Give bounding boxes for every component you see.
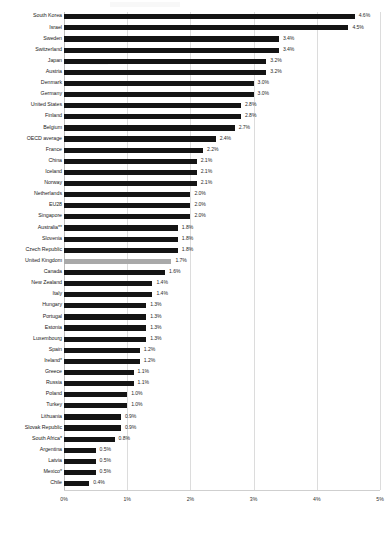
bar-chart: South Korea4.6%Israel4.5%Sweden3.4%Switz… bbox=[0, 0, 388, 534]
bar-value-label: 1.4% bbox=[156, 289, 167, 299]
bar-value-label: 1.6% bbox=[169, 267, 180, 277]
bar-row: United States2.8% bbox=[64, 101, 380, 111]
bar-value-label: 3.0% bbox=[258, 78, 269, 88]
bar-value-label: 0.5% bbox=[100, 467, 111, 477]
category-label: Portugal bbox=[0, 312, 62, 322]
category-label: Ireland* bbox=[0, 356, 62, 366]
bar-value-label: 2.0% bbox=[194, 189, 205, 199]
bar-value-label: 3.2% bbox=[270, 56, 281, 66]
bar-value-label: 0.5% bbox=[100, 445, 111, 455]
bar-value-label: 0.5% bbox=[100, 456, 111, 466]
bar-row: Russia1.1% bbox=[64, 379, 380, 389]
bar-row: Slovenia1.8% bbox=[64, 234, 380, 244]
category-label: Lithuania bbox=[0, 412, 62, 422]
category-label: Sweden bbox=[0, 34, 62, 44]
bar-value-label: 3.4% bbox=[283, 34, 294, 44]
bar-value-label: 1.7% bbox=[175, 256, 186, 266]
bar-value-label: 1.0% bbox=[131, 400, 142, 410]
bar-row: South Africa*0.8% bbox=[64, 434, 380, 444]
bar bbox=[64, 292, 152, 297]
category-label: Hungary bbox=[0, 300, 62, 310]
bar-value-label: 4.6% bbox=[359, 11, 370, 21]
bar bbox=[64, 59, 266, 64]
bar-row: Finland2.8% bbox=[64, 112, 380, 122]
bar-row: France2.2% bbox=[64, 145, 380, 155]
bar bbox=[64, 181, 197, 186]
bar-row: Portugal1.3% bbox=[64, 312, 380, 322]
bar-row: Austria3.2% bbox=[64, 68, 380, 78]
bar bbox=[64, 48, 279, 53]
category-label: France bbox=[0, 145, 62, 155]
category-label: South Korea bbox=[0, 11, 62, 21]
bar-row: Czech Republic1.8% bbox=[64, 245, 380, 255]
bar-row: Israel4.5% bbox=[64, 23, 380, 33]
category-label: Germany bbox=[0, 89, 62, 99]
bar bbox=[64, 337, 146, 342]
bar-row: Lithuania0.9% bbox=[64, 412, 380, 422]
bar-row: Turkey1.0% bbox=[64, 401, 380, 411]
bar-value-label: 3.4% bbox=[283, 45, 294, 55]
bar bbox=[64, 370, 134, 375]
category-label: Singapore bbox=[0, 211, 62, 221]
bar-value-label: 1.3% bbox=[150, 300, 161, 310]
category-label: Poland bbox=[0, 389, 62, 399]
x-tick-label: 2% bbox=[187, 496, 195, 502]
category-label: Chile bbox=[0, 478, 62, 488]
category-label: Finland bbox=[0, 111, 62, 121]
plot-area: South Korea4.6%Israel4.5%Sweden3.4%Switz… bbox=[64, 12, 380, 490]
category-label: OECD average bbox=[0, 134, 62, 144]
bar bbox=[64, 314, 146, 319]
category-label: EU28 bbox=[0, 200, 62, 210]
bar bbox=[64, 136, 216, 141]
category-label: Austria bbox=[0, 67, 62, 77]
bar-row: Denmark3.0% bbox=[64, 79, 380, 89]
bar bbox=[64, 459, 96, 464]
bar bbox=[64, 192, 190, 197]
category-label: Estonia bbox=[0, 323, 62, 333]
bar bbox=[64, 392, 127, 397]
bar-row: Poland1.0% bbox=[64, 390, 380, 400]
x-tick-label: 0% bbox=[60, 496, 68, 502]
bar-value-label: 2.7% bbox=[239, 123, 250, 133]
bar-row: EU282.0% bbox=[64, 201, 380, 211]
bar bbox=[64, 114, 241, 119]
bar-value-label: 1.8% bbox=[182, 245, 193, 255]
bar bbox=[64, 159, 197, 164]
bar-value-label: 2.0% bbox=[194, 200, 205, 210]
category-label: Japan bbox=[0, 56, 62, 66]
bar bbox=[64, 125, 235, 130]
category-label: Australia** bbox=[0, 223, 62, 233]
x-axis: 0%1%2%3%4%5% bbox=[64, 490, 380, 508]
bar bbox=[64, 448, 96, 453]
category-label: Czech Republic bbox=[0, 245, 62, 255]
x-tick-label: 1% bbox=[123, 496, 131, 502]
bar-value-label: 1.0% bbox=[131, 389, 142, 399]
bar-value-label: 2.8% bbox=[245, 111, 256, 121]
bar bbox=[64, 470, 96, 475]
category-label: Norway bbox=[0, 178, 62, 188]
category-label: Italy bbox=[0, 289, 62, 299]
category-label: Denmark bbox=[0, 78, 62, 88]
bar bbox=[64, 248, 178, 253]
bar bbox=[64, 170, 197, 175]
category-label: Russia bbox=[0, 378, 62, 388]
category-label: Turkey bbox=[0, 400, 62, 410]
category-label: Canada bbox=[0, 267, 62, 277]
bar-row: Singapore2.0% bbox=[64, 212, 380, 222]
bar-rows: South Korea4.6%Israel4.5%Sweden3.4%Switz… bbox=[64, 12, 380, 490]
bar-row: Sweden3.4% bbox=[64, 34, 380, 44]
category-label: Argentina bbox=[0, 445, 62, 455]
x-tick-label: 5% bbox=[376, 496, 384, 502]
bar-value-label: 1.8% bbox=[182, 234, 193, 244]
bar bbox=[64, 81, 254, 86]
bar bbox=[64, 14, 355, 19]
bar-value-label: 1.8% bbox=[182, 223, 193, 233]
category-label: United Kingdom bbox=[0, 256, 62, 266]
category-label: Greece bbox=[0, 367, 62, 377]
category-label: Luxembourg bbox=[0, 334, 62, 344]
bar-row: Switzerland3.4% bbox=[64, 45, 380, 55]
category-label: Slovenia bbox=[0, 234, 62, 244]
bar-row: Canada1.6% bbox=[64, 268, 380, 278]
x-axis-line bbox=[64, 490, 380, 491]
bar-value-label: 4.5% bbox=[352, 23, 363, 33]
